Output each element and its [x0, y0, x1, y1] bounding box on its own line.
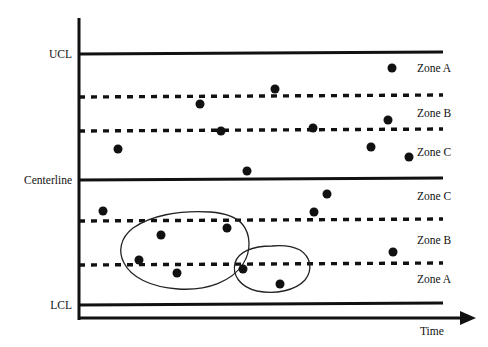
- data-point: [173, 269, 182, 278]
- zone-label-lower-b: Zone B: [417, 234, 452, 246]
- ucl-label: UCL: [49, 48, 72, 60]
- data-point: [367, 143, 376, 152]
- data-point: [114, 145, 123, 154]
- upper-2-sigma-line: [79, 95, 443, 97]
- data-point: [99, 207, 108, 216]
- data-point: [388, 64, 397, 73]
- lcl-label: LCL: [50, 299, 72, 311]
- control-chart-canvas: UCL Centerline LCL Zone A Zone B Zone C …: [0, 0, 488, 347]
- zone-label-lower-c: Zone C: [417, 190, 452, 202]
- ucl-line: [79, 52, 443, 54]
- zone-label-upper-a: Zone A: [417, 62, 452, 74]
- data-point: [310, 208, 319, 217]
- data-point: [157, 231, 166, 240]
- lcl-line: [79, 303, 443, 305]
- data-point: [223, 224, 232, 233]
- zone-label-upper-b: Zone B: [417, 107, 452, 119]
- data-point: [243, 167, 252, 176]
- zone-label-lower-a: Zone A: [417, 273, 452, 285]
- centerline-line: [79, 178, 443, 180]
- x-axis-title: Time: [420, 325, 444, 337]
- data-point: [135, 256, 144, 265]
- data-point: [196, 100, 205, 109]
- circled-cluster-left: [121, 212, 249, 290]
- upper-1-sigma-line: [79, 129, 443, 131]
- data-point: [405, 153, 414, 162]
- data-point: [276, 280, 285, 289]
- data-point: [309, 124, 318, 133]
- data-point: [389, 248, 398, 257]
- zone-label-upper-c: Zone C: [417, 146, 452, 158]
- centerline-label: Centerline: [24, 174, 72, 186]
- control-chart: UCL Centerline LCL Zone A Zone B Zone C …: [0, 0, 488, 347]
- data-point: [323, 190, 332, 199]
- lower-2-sigma-line: [79, 263, 443, 265]
- data-point: [217, 127, 226, 136]
- data-point: [239, 265, 248, 274]
- data-point: [384, 116, 393, 125]
- data-point-group: [99, 64, 414, 289]
- data-point: [271, 85, 280, 94]
- lower-1-sigma-line: [79, 219, 443, 221]
- x-axis-arrow-icon: [460, 311, 476, 325]
